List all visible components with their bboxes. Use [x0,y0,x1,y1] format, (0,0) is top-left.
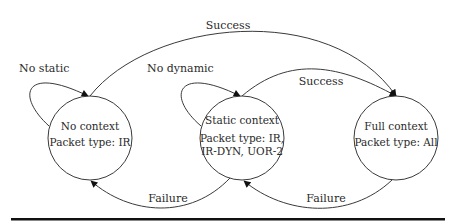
label-no-dynamic: No dynamic [147,62,214,75]
label-failure-left: Failure [148,192,187,205]
state-packet: Packet type: All [354,136,438,148]
state-full-context: Full context Packet type: All [354,96,438,180]
state-name: Full context [364,120,428,132]
state-no-context: No context Packet type: IR [48,96,132,180]
state-packet: Packet type: IR [50,136,132,148]
label-no-static: No static [19,62,69,75]
label-failure-right: Failure [306,192,345,205]
state-packet-line2: IR-DYN, UOR-2 [201,145,283,157]
state-name: No context [61,120,120,132]
state-name: Static context [205,114,280,126]
edge-success-no-to-full [90,31,396,96]
state-packet: Packet type: IR, [200,132,284,144]
state-static-context: Static context Packet type: IR, IR-DYN, … [200,96,284,180]
bottom-rule [11,218,445,221]
label-success-mid: Success [299,75,344,88]
label-success-top: Success [206,19,251,32]
state-diagram: Success Success No static No dynamic Fai… [0,0,454,223]
